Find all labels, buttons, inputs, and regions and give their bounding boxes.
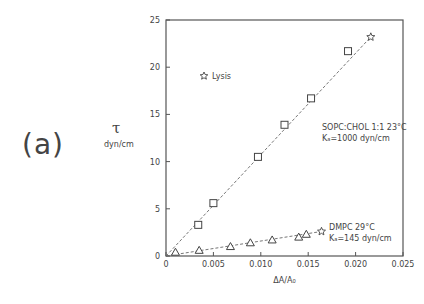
data-points [171, 33, 374, 255]
y-tick-label: 0 [155, 252, 160, 261]
y-tick-label: 25 [150, 16, 160, 25]
chart-axes: 00.0050.0100.0150.0200.0250510152025ΔA/A… [150, 16, 415, 285]
scatter-chart: 00.0050.0100.0150.0200.0250510152025ΔA/A… [0, 0, 424, 304]
x-tick-label: 0.020 [344, 260, 367, 269]
x-tick-label: 0.015 [297, 260, 320, 269]
y-tick-label: 5 [155, 205, 160, 214]
chart-annotations: LysisSOPC:CHOL 1:1 23°CKₐ=1000 dyn/cmDMP… [200, 72, 407, 243]
triangle-marker [171, 248, 179, 255]
triangle-marker [268, 236, 276, 243]
square-marker [281, 121, 288, 128]
y-tick-label: 10 [150, 158, 160, 167]
legend-star-icon [200, 72, 208, 79]
lysis-star-marker [367, 33, 375, 41]
legend-label: Lysis [212, 72, 231, 81]
triangle-marker [195, 246, 203, 253]
x-tick-label: 0.025 [392, 260, 415, 269]
x-axis-label: ΔA/A₀ [273, 276, 295, 285]
y-tick-label: 15 [150, 110, 160, 119]
square-marker [195, 221, 202, 228]
square-marker [210, 200, 217, 207]
square-marker [254, 153, 261, 160]
x-tick-label: 0.010 [249, 260, 272, 269]
x-tick-label: 0.005 [202, 260, 225, 269]
dmpc-annotation: DMPC 29°C [329, 223, 375, 232]
triangle-marker [302, 230, 310, 237]
sopc-annotation: SOPC:CHOL 1:1 23°C [322, 123, 407, 132]
lysis-star-marker [318, 227, 326, 235]
sopc-ka-annotation: Kₐ=1000 dyn/cm [322, 134, 390, 143]
square-marker [308, 95, 315, 102]
x-tick-label: 0 [163, 260, 168, 269]
triangle-marker [246, 239, 254, 246]
y-tick-label: 20 [150, 63, 160, 72]
square-marker [345, 48, 352, 55]
dmpc-ka-annotation: Kₐ=145 dyn/cm [329, 234, 392, 243]
